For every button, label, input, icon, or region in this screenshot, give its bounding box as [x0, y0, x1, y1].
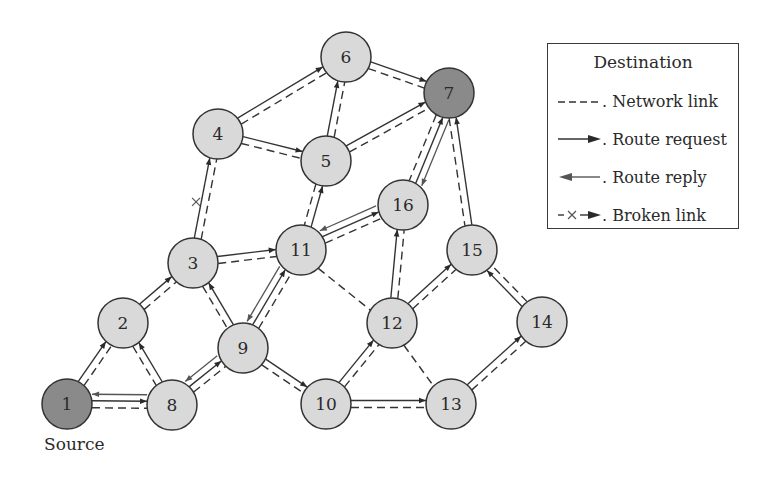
route-request-arrow: [339, 340, 373, 382]
legend-item-route-reply: . Route reply: [558, 166, 707, 188]
node-label: 12: [381, 313, 403, 333]
network-link: [350, 108, 429, 152]
node-9: 9: [218, 323, 268, 373]
node-label: 1: [62, 394, 73, 414]
network-link: [492, 265, 527, 301]
node-3: 3: [168, 238, 218, 288]
node-label: 11: [290, 240, 312, 260]
node-10: 10: [301, 379, 351, 429]
route-reply-arrow: [320, 206, 376, 231]
node-16: 16: [378, 180, 428, 230]
route-reply-arrow: [247, 266, 280, 321]
edge-10-12: [339, 340, 379, 387]
route-reply-arrow: [422, 120, 449, 186]
node-label: 8: [167, 395, 178, 415]
node-label: 2: [118, 313, 129, 333]
network-link: [241, 143, 300, 158]
node-15: 15: [447, 225, 497, 275]
node-14: 14: [517, 297, 567, 347]
edge-15-7: [449, 117, 472, 226]
edge-12-16: [391, 230, 404, 299]
route-request-arrow: [456, 117, 472, 225]
node-label: 10: [315, 394, 337, 414]
legend-title: Destination: [548, 52, 738, 72]
legend-item-route-request: . Route request: [558, 128, 727, 150]
route-reply-arrow: [92, 394, 147, 395]
edge-6-7: [368, 62, 426, 88]
network-link: [413, 269, 456, 308]
node-6: 6: [321, 32, 371, 82]
route-request-arrow: [238, 67, 323, 118]
node-11: 11: [276, 225, 326, 275]
edge-8-1: [92, 394, 147, 395]
route-request-arrow: [327, 81, 338, 136]
network-link: [409, 115, 436, 181]
edge-9-3: [203, 283, 234, 328]
edge-9-10: [262, 359, 307, 393]
edge-1-2: [78, 342, 111, 386]
route-request-arrow: [346, 102, 425, 146]
node-label: 5: [321, 151, 332, 171]
node-label: 6: [341, 47, 352, 67]
route-request-arrow: [217, 250, 275, 257]
edge-13-14: [467, 336, 526, 390]
legend: Destination . Network link . Route reque…: [547, 43, 739, 229]
node-label: 16: [392, 195, 414, 215]
route-request-arrow: [92, 401, 147, 402]
edge-14-15: [487, 265, 527, 306]
network-link: [345, 345, 379, 387]
edge-11-9: [247, 266, 280, 321]
node-label: 7: [444, 83, 455, 103]
nodes-layer: 12345678910111213141516: [42, 32, 567, 430]
edge-12-15: [408, 264, 456, 308]
network-link: [398, 230, 404, 298]
edge-8-2: [133, 343, 162, 386]
edge-11-12: [318, 268, 370, 310]
legend-item-network-link: . Network link: [558, 90, 718, 112]
route-request-arrow: [467, 336, 521, 385]
edge-12-13: [404, 345, 434, 386]
network-link: [318, 268, 370, 310]
edge-8-9: [189, 361, 225, 392]
node-label: 3: [188, 253, 199, 273]
broken-link-icon: [558, 208, 602, 222]
edge-1-8: [92, 401, 147, 409]
network-link: [262, 365, 304, 393]
edge-5-6: [327, 81, 344, 137]
network-link: [218, 256, 276, 263]
network-link: [404, 345, 434, 386]
route-request-arrow: [311, 186, 322, 227]
node-8: 8: [147, 380, 197, 430]
legend-label: . Route request: [602, 130, 727, 149]
legend-item-broken-link: . Broken link: [558, 204, 706, 226]
node-label: 13: [440, 394, 462, 414]
route-request-arrow: [194, 158, 209, 238]
dashed-line-icon: [558, 94, 602, 108]
network-link: [325, 218, 381, 243]
network-link: [472, 341, 526, 390]
node-label: 9: [238, 338, 249, 358]
legend-label: . Route reply: [602, 168, 707, 187]
network-link: [304, 184, 315, 225]
route-request-arrow: [253, 270, 286, 325]
route-request-arrow: [408, 264, 451, 303]
edge-4-5: [241, 137, 302, 159]
network-link: [92, 408, 147, 409]
arrow-right-icon: [558, 132, 602, 146]
node-12: 12: [367, 298, 417, 348]
network-link: [449, 118, 465, 226]
edge-3-11: [217, 250, 276, 264]
network-link: [84, 346, 112, 386]
arrow-left-icon: [558, 170, 602, 184]
route-request-arrow: [322, 212, 378, 237]
edge-3-4: [192, 158, 217, 239]
node-label: 15: [461, 240, 483, 260]
edge-2-3: [140, 277, 177, 310]
node-2: 2: [98, 298, 148, 348]
legend-label: . Broken link: [602, 206, 706, 225]
broken-link-icon: [192, 198, 200, 206]
node-4: 4: [193, 109, 243, 159]
route-request-arrow: [78, 342, 106, 382]
edge-7-16: [422, 120, 449, 186]
route-request-arrow: [243, 137, 302, 152]
